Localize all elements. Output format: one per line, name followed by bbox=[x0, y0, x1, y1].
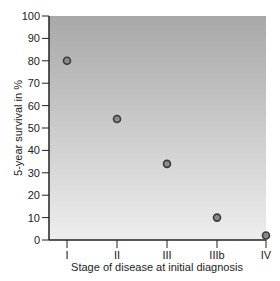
y-tick-label: 70 bbox=[28, 77, 40, 89]
data-point-marker bbox=[263, 232, 270, 239]
y-tick-label: 0 bbox=[34, 234, 40, 246]
y-tick-label: 40 bbox=[28, 144, 40, 156]
y-tick-label: 60 bbox=[28, 100, 40, 112]
y-tick-label: 90 bbox=[28, 32, 40, 44]
x-axis-title: Stage of disease at initial diagnosis bbox=[71, 261, 243, 273]
y-tick-label: 30 bbox=[28, 167, 40, 179]
y-axis-title: 5-year survival in % bbox=[12, 80, 24, 176]
x-axis-ticks: IIIIIIIIIbIV bbox=[65, 240, 271, 261]
x-tick-label: IV bbox=[261, 249, 272, 261]
survival-chart: 0102030405060708090100 IIIIIIIIIbIV 5-ye… bbox=[0, 0, 280, 281]
x-tick-label: II bbox=[114, 249, 120, 261]
y-axis-ticks: 0102030405060708090100 bbox=[22, 10, 49, 246]
y-tick-label: 100 bbox=[22, 10, 40, 22]
x-tick-label: I bbox=[65, 249, 68, 261]
data-point-marker bbox=[114, 116, 121, 123]
x-tick-label: IIIb bbox=[209, 249, 224, 261]
y-tick-label: 10 bbox=[28, 212, 40, 224]
y-tick-label: 20 bbox=[28, 189, 40, 201]
data-point-marker bbox=[214, 214, 221, 221]
plot-area bbox=[49, 16, 266, 240]
y-tick-label: 50 bbox=[28, 122, 40, 134]
x-tick-label: III bbox=[162, 249, 171, 261]
data-point-marker bbox=[64, 57, 71, 64]
data-point-marker bbox=[164, 160, 171, 167]
y-tick-label: 80 bbox=[28, 55, 40, 67]
